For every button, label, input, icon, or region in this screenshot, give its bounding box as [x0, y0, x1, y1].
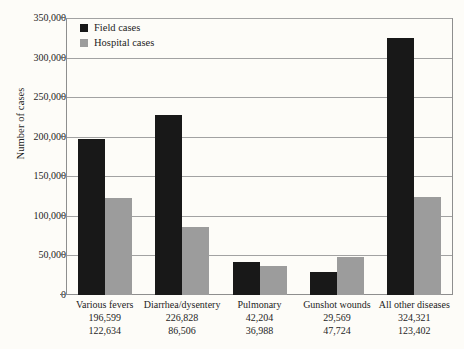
bar-hospital: [182, 227, 209, 295]
y-tick-label: 300,000: [8, 53, 66, 63]
y-tick-label: 350,000: [8, 13, 66, 23]
bar-field: [78, 139, 105, 295]
bar-field: [310, 272, 337, 295]
category-label-block: All other diseases324,321123,402: [354, 298, 464, 337]
y-tick-label: 100,000: [8, 211, 66, 221]
y-tick-mark: [60, 17, 65, 18]
legend-label-field: Field cases: [94, 22, 140, 34]
bar-group: [310, 18, 364, 295]
y-tick-mark: [60, 215, 65, 216]
legend-label-hospital: Hospital cases: [94, 37, 154, 49]
bar-hospital: [260, 266, 287, 295]
bar-group: [78, 18, 132, 295]
bars-layer: [66, 18, 453, 295]
bar-field: [233, 262, 260, 295]
category-value-hospital: 123,402: [354, 324, 464, 337]
y-tick-mark: [60, 254, 65, 255]
y-tick-label: 200,000: [8, 132, 66, 142]
legend-item-field: Field cases: [80, 22, 154, 34]
legend-swatch-field-icon: [80, 24, 88, 32]
y-tick-label: 250,000: [8, 92, 66, 102]
bar-field: [387, 38, 414, 295]
legend-swatch-hospital-icon: [80, 39, 88, 47]
x-axis-category-labels: Various fevers196,599122,634Diarrhea/dys…: [66, 298, 453, 348]
y-tick-label: 150,000: [8, 171, 66, 181]
bar-group: [155, 18, 209, 295]
bar-group: [233, 18, 287, 295]
bar-hospital: [414, 197, 441, 295]
legend: Field cases Hospital cases: [80, 22, 154, 49]
bar-hospital: [337, 257, 364, 295]
y-axis: 050,000100,000150,000200,000250,000300,0…: [0, 18, 66, 295]
y-tick-mark: [60, 175, 65, 176]
legend-item-hospital: Hospital cases: [80, 37, 154, 49]
y-tick-label: 50,000: [8, 250, 66, 260]
y-tick-mark: [60, 57, 65, 58]
y-tick-mark: [60, 136, 65, 137]
category-name: All other diseases: [354, 298, 464, 311]
y-tick-mark: [60, 294, 65, 295]
y-tick-mark: [60, 96, 65, 97]
category-value-field: 324,321: [354, 311, 464, 324]
bar-chart: Number of cases 050,000100,000150,000200…: [0, 0, 464, 349]
bar-group: [387, 18, 441, 295]
bar-field: [155, 115, 182, 295]
bar-hospital: [105, 198, 132, 295]
